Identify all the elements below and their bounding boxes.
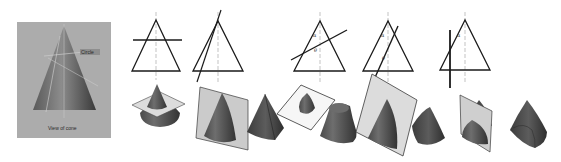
solid-inclined-plane <box>196 87 248 150</box>
cone-body <box>510 100 547 148</box>
elevation-steep <box>193 10 243 82</box>
elevation-circle <box>132 12 182 80</box>
solid-sectioned-cone <box>247 94 284 140</box>
conic-sections-diagram: Circle View of cone α θ α θ α <box>0 0 561 162</box>
solid-parabola-plane <box>356 74 417 156</box>
frustum-top-face <box>329 103 349 113</box>
photo-caption: View of cone <box>48 125 77 131</box>
angle-alpha-label: α <box>313 32 317 38</box>
angle-theta-label: θ <box>382 55 385 61</box>
cutting-plane-line <box>373 26 398 82</box>
elevation-hyperbola: α <box>440 12 490 88</box>
elevation-parabola: α θ <box>363 12 413 82</box>
cutting-plane-line <box>291 30 347 60</box>
solid-hyperbola-piece <box>510 100 547 148</box>
cone-body <box>247 94 284 140</box>
angle-alpha-label: α <box>381 32 385 38</box>
angle-alpha-label: α <box>457 32 461 38</box>
elevation-ellipse: α θ <box>291 12 347 82</box>
cone-elevation-triangle <box>294 21 345 71</box>
solid-hyperbola-plane <box>460 95 492 152</box>
photo-circle-label: Circle <box>81 49 94 55</box>
angle-theta-label: θ <box>314 47 317 53</box>
solid-parabola-piece <box>412 107 445 145</box>
solid-circle-section <box>132 84 185 127</box>
cone-body <box>412 107 445 145</box>
cone-photo: Circle View of cone <box>17 22 111 138</box>
